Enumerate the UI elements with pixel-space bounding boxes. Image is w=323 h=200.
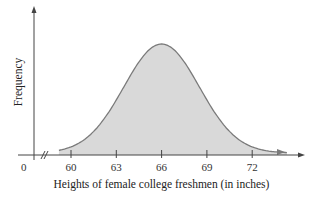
- origin-label: 0: [21, 161, 27, 173]
- x-axis-arrow-icon: [298, 153, 305, 158]
- x-tick-label: 63: [111, 161, 122, 173]
- x-tick-label: 72: [247, 161, 258, 173]
- x-axis-label: Heights of female college freshmen (in i…: [0, 178, 323, 190]
- x-tick-label: 60: [66, 161, 77, 173]
- y-axis-arrow-icon: [32, 6, 37, 13]
- x-tick-label: 69: [201, 161, 212, 173]
- normal-curve-area: [59, 44, 287, 155]
- y-axis-label: Frequency: [12, 58, 24, 107]
- x-tick-label: 66: [156, 161, 167, 173]
